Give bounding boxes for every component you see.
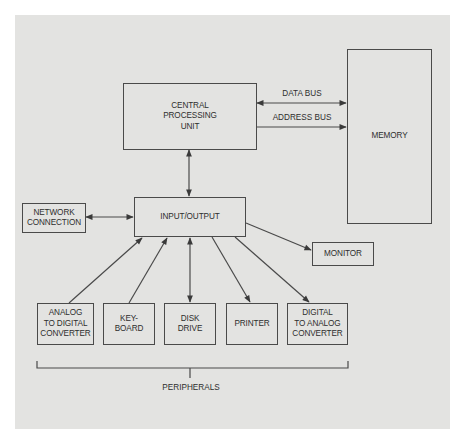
data-bus-label: DATA BUS (282, 89, 321, 99)
disk-drive-box: DISK DRIVE (164, 303, 216, 345)
dac-label: DIGITAL TO ANALOG CONVERTER (292, 308, 342, 340)
keyboard-label: KEY- BOARD (115, 314, 144, 335)
adc-label: ANALOG TO DIGITAL CONVERTER (40, 308, 90, 340)
keyboard-io-arrow (129, 238, 167, 303)
network-box: NETWORK CONNECTION (22, 203, 86, 233)
memory-box: MEMORY (347, 49, 432, 224)
printer-box: PRINTER (226, 303, 278, 345)
dac-box: DIGITAL TO ANALOG CONVERTER (287, 303, 348, 345)
peripherals-label: PERIPHERALS (162, 383, 219, 393)
io-monitor-arrow (246, 223, 311, 250)
adc-io-arrow (69, 238, 142, 303)
printer-label: PRINTER (234, 319, 269, 330)
io-label: INPUT/OUTPUT (160, 212, 219, 223)
monitor-box: MONITOR (312, 242, 374, 266)
adc-box: ANALOG TO DIGITAL CONVERTER (37, 303, 94, 345)
peripherals-bracket (37, 361, 348, 378)
io-box: INPUT/OUTPUT (134, 197, 246, 237)
keyboard-box: KEY- BOARD (103, 303, 155, 345)
cpu-label: CENTRAL PROCESSING UNIT (163, 101, 217, 133)
io-dac-arrow (235, 237, 309, 302)
io-printer-arrow (212, 237, 250, 302)
address-bus-label: ADDRESS BUS (273, 113, 332, 123)
monitor-label: MONITOR (324, 249, 362, 260)
disk-drive-label: DISK DRIVE (178, 314, 203, 335)
cpu-box: CENTRAL PROCESSING UNIT (123, 83, 257, 150)
network-label: NETWORK CONNECTION (27, 208, 81, 229)
memory-label: MEMORY (371, 131, 407, 142)
